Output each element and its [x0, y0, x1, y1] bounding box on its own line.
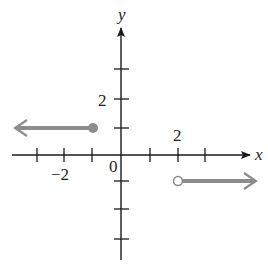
y-axis-label: y: [116, 5, 126, 24]
left-ray: [15, 120, 98, 136]
x-axis-label: x: [254, 145, 263, 164]
open-endpoint: [174, 177, 183, 186]
y-tick-label-2: 2: [98, 91, 107, 110]
x-tick-label-neg-2: −2: [51, 165, 69, 184]
origin-label: 0: [109, 157, 118, 176]
right-ray: [174, 173, 257, 189]
piecewise-function-graph: y x 2 2 −2 0: [0, 0, 268, 272]
x-tick-label-2: 2: [173, 126, 182, 145]
closed-endpoint: [88, 123, 98, 133]
